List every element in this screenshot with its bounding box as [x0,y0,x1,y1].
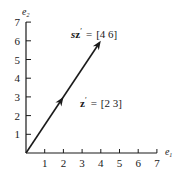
x-axis-label: e1 [165,146,172,158]
y-tick-label: 3 [15,91,21,103]
arrowhead-z-icon [55,97,63,106]
vector-z-prime [55,97,63,106]
vector-z-label: z′=[2 3] [80,96,122,109]
y-tick-label: 6 [15,35,21,47]
arrowhead-sz-icon [93,41,101,50]
vector-sz-label: sz′=[4 6] [70,27,117,40]
y-tick-label: 1 [15,128,21,140]
y-tick-label: 7 [15,16,21,28]
y-axis-ticks: 1234567 [15,16,32,140]
x-tick-label: 7 [154,157,160,169]
x-tick-label: 2 [61,157,67,169]
y-tick-label: 2 [15,110,21,122]
vector-scaling-diagram: 1234567 1234567 e1 e2 sz′=[4 6] z′=[2 3] [0,0,181,176]
axes [26,22,157,153]
x-tick-label: 6 [135,157,141,169]
vector-sz-prime [26,41,101,153]
x-tick-label: 1 [42,157,48,169]
x-axis-ticks: 1234567 [42,149,160,169]
y-axis-label: e2 [22,6,29,18]
y-tick-label: 5 [15,54,21,66]
x-tick-label: 4 [98,157,104,169]
x-tick-label: 5 [117,157,123,169]
y-tick-label: 4 [15,72,21,84]
x-tick-label: 3 [79,157,85,169]
